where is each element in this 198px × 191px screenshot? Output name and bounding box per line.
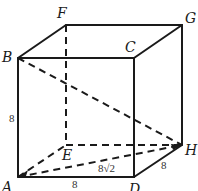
- diagonal-BH: [18, 58, 182, 145]
- vertex-label-B: B: [2, 50, 12, 64]
- measurement-AB: 8: [9, 113, 15, 124]
- vertex-label-A: A: [2, 180, 12, 191]
- vertex-label-D: D: [129, 182, 140, 191]
- edge-DH: [134, 145, 182, 177]
- measurement-AH: 8√2: [98, 163, 115, 174]
- vertex-label-F: F: [57, 6, 67, 20]
- vertex-label-E: E: [62, 148, 72, 162]
- vertex-label-H: H: [185, 143, 197, 157]
- measurement-AD: 8: [72, 179, 78, 190]
- measurement-DH: 8: [161, 160, 167, 171]
- vertex-label-C: C: [125, 40, 136, 54]
- vertex-label-G: G: [185, 11, 196, 25]
- edge-CG: [134, 25, 182, 58]
- edge-BF: [18, 25, 66, 58]
